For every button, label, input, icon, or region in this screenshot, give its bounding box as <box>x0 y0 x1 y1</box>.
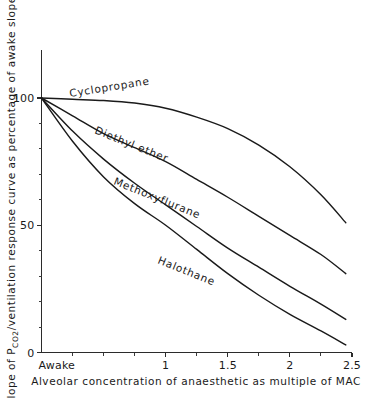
chart-plot-area: 05010011.522.5Awake CyclopropaneDiethyl … <box>0 0 372 399</box>
chart-figure: 05010011.522.5Awake CyclopropaneDiethyl … <box>0 0 372 399</box>
curve-label-diethyl-ether: Diethyl ether <box>93 124 170 165</box>
x-tick-label: 2.5 <box>343 359 361 372</box>
y-axis-title-subscript: CO2 <box>11 330 20 348</box>
y-axis-ticks <box>37 98 42 353</box>
x-axis-origin-label: Awake <box>39 359 76 372</box>
y-axis-title: Slope of PCO2/ventilation response curve… <box>5 0 20 399</box>
x-tick-label: 1.5 <box>219 359 237 372</box>
curve-labels: CyclopropaneDiethyl etherMethoxyfluraneH… <box>68 74 217 287</box>
curve-label-cyclopropane: Cyclopropane <box>68 74 150 99</box>
y-axis-title-suffix: /ventilation response curve as percentag… <box>5 0 17 330</box>
axis-tick-labels: 05010011.522.5Awake <box>13 92 361 372</box>
curve-label-methoxyflurane: Methoxyflurane <box>112 175 202 221</box>
x-axis-title: Alveolar concentration of anaesthetic as… <box>31 375 361 387</box>
y-tick-label: 0 <box>27 347 34 360</box>
x-axis-ticks <box>73 353 352 358</box>
y-axis-title-prefix: Slope of P <box>5 348 17 399</box>
y-tick-label: 50 <box>20 219 34 232</box>
curve-halothane <box>42 98 346 345</box>
x-tick-label: 2 <box>286 359 293 372</box>
curve-cyclopropane <box>42 98 346 223</box>
chart-curves <box>42 98 346 345</box>
x-tick-label: 1 <box>162 359 169 372</box>
